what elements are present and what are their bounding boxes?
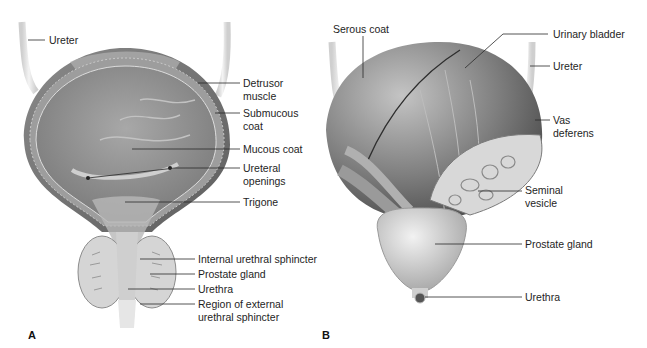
label-prostate-gland-b: Prostate gland — [525, 238, 593, 250]
label-external-sphincter-line1: Region of external — [198, 298, 283, 310]
label-serous-coat: Serous coat — [333, 23, 389, 35]
label-ureter-a: Ureter — [49, 34, 78, 46]
label-prostate-gland-a: Prostate gland — [198, 268, 266, 280]
label-detrusor-muscle-line2: muscle — [243, 90, 276, 102]
label-trigone: Trigone — [243, 196, 278, 208]
label-seminal-vesicle-line1: Seminal — [525, 184, 563, 196]
label-mucous-coat: Mucous coat — [243, 143, 303, 155]
label-vas-deferens-line2: deferens — [553, 127, 594, 139]
label-vas-deferens-line1: Vas — [553, 114, 570, 126]
ureter-right-a — [218, 22, 227, 96]
panel-b-illustration — [326, 42, 542, 303]
label-submucous-coat-line1: Submucous — [243, 107, 298, 119]
label-submucous-coat-line2: coat — [243, 120, 263, 132]
label-urinary-bladder: Urinary bladder — [553, 28, 625, 40]
label-seminal-vesicle-line2: vesicle — [525, 197, 557, 209]
label-urethra-a: Urethra — [198, 283, 233, 295]
label-detrusor-muscle-line1: Detrusor — [243, 77, 283, 89]
label-urethra-b: Urethra — [525, 291, 560, 303]
panel-letter-a: A — [28, 329, 36, 341]
label-internal-urethral-sphincter: Internal urethral sphincter — [198, 253, 317, 265]
label-ureteral-openings-line1: Ureteral — [243, 162, 280, 174]
ureter-left-a — [22, 22, 36, 92]
label-ureter-b: Ureter — [553, 60, 582, 72]
panel-letter-b: B — [322, 329, 330, 341]
prostate-b — [377, 208, 466, 290]
label-ureteral-openings-line2: openings — [243, 175, 286, 187]
label-external-sphincter-line2: urethral sphincter — [198, 311, 279, 323]
